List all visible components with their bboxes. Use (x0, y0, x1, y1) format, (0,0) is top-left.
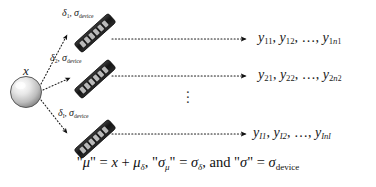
output-label-3: yI1, yI2, …, yInI (253, 126, 331, 141)
output-1-sub3-n-sub: 1 (337, 37, 341, 46)
output-3-sep2: , (287, 125, 294, 140)
eq-sigma-1: σ (158, 154, 165, 170)
eq-equals-2: = (176, 154, 191, 170)
vdots-dot-3: . (186, 96, 190, 101)
output-label-2: y21, y22, …, y2n2 (258, 68, 342, 83)
output-2-sep2: , (295, 67, 302, 82)
output-3-sep3: , (308, 125, 315, 140)
eq-equals-3: = (253, 154, 268, 170)
output-3-ellipsis: … (294, 125, 308, 140)
eq-mu-2: μ (133, 154, 140, 170)
device-label-3: δI, σdevice (58, 108, 89, 119)
output-2-ellipsis: … (302, 67, 316, 82)
device-to-output-arrows (112, 39, 246, 134)
source-sphere (11, 77, 42, 108)
output-label-1: y11, y12, …, y1n1 (258, 31, 341, 46)
output-1-sub1: 11 (264, 36, 272, 46)
eq-and: and (210, 154, 235, 170)
arrow-to-device-2 (43, 78, 70, 90)
eq-comma-1: , (145, 154, 152, 170)
eq-equals-1: = (96, 154, 111, 170)
eq-sigma-4-sub: device (276, 162, 299, 172)
summary-equation: "μ" = x + μδ, "σμ" = σδ, and "σ" = σdevi… (0, 154, 376, 172)
device-3-sigma-sub: device (74, 113, 89, 119)
output-1-ellipsis: … (301, 30, 315, 45)
measurement-uncertainty-figure: x δ1, σdevice δ2, σdevice δI, σdevice y1… (0, 0, 376, 187)
device-bar-2 (74, 59, 116, 99)
device-bar-3 (74, 119, 116, 159)
vertical-ellipsis: . . . (186, 86, 190, 101)
output-2-sub3-n-sub: 2 (338, 74, 342, 83)
eq-comma-2: , (202, 154, 209, 170)
output-2-sub1: 21 (264, 73, 273, 83)
output-3-sub2: I2 (280, 131, 287, 141)
output-2-sep1: , (273, 67, 280, 82)
source-label-x: x (23, 64, 29, 77)
eq-plus: + (118, 154, 133, 170)
output-3-sub3-n-sub: I (328, 132, 331, 141)
eq-sigma-4: σ (269, 154, 276, 170)
eq-mu-1: μ (83, 154, 90, 170)
output-2-sep3: , (316, 67, 323, 82)
device-label-1: δ1, σdevice (62, 8, 93, 19)
device-2-sigma-sub: device (67, 58, 82, 64)
output-2-sub2: 22 (286, 73, 295, 83)
device-label-2: δ2, σdevice (50, 53, 81, 64)
output-1-sep1: , (273, 30, 280, 45)
device-1-sigma-sub: device (79, 13, 94, 19)
